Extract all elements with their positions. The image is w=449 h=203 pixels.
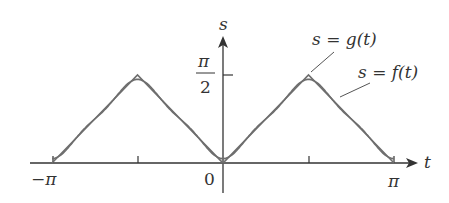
neg-pi-label: −π <box>31 169 57 189</box>
pi-half-numerator: π <box>197 51 210 71</box>
f-curve-label: s = f(t) <box>358 62 418 82</box>
s-axis-label: s <box>219 14 228 34</box>
g-leader-line <box>311 52 334 72</box>
zero-label: 0 <box>204 169 215 189</box>
diagram: s t π 2 −π 0 π s = g(t) s = f(t) <box>0 0 449 203</box>
t-axis-label: t <box>424 152 431 172</box>
f-leader-line <box>340 83 370 97</box>
pi-half-denominator: 2 <box>200 77 211 97</box>
g-curve-label: s = g(t) <box>312 29 377 49</box>
pi-label: π <box>387 171 400 191</box>
